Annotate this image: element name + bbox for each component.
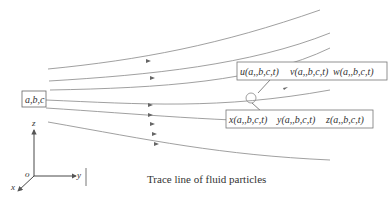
velocity-label: u(a,,b,c,t) v(a,,b,c,t) w(a,,b,c,t) bbox=[237, 62, 387, 80]
caption: Trace line of fluid particles bbox=[147, 173, 266, 185]
z-axis-label: z bbox=[31, 118, 36, 128]
position-label: x(a,,b,c,t) y(a,,b,c,t) z(a,,b,c,t) bbox=[226, 110, 373, 128]
origin-label: o bbox=[25, 169, 30, 179]
svg-text:z(a,,b,c,t): z(a,,b,c,t) bbox=[325, 114, 364, 126]
y-axis-label: y bbox=[76, 170, 81, 180]
streamline-4 bbox=[46, 90, 330, 104]
particle-marker bbox=[246, 93, 256, 103]
svg-text:a,b,c: a,b,c bbox=[25, 94, 45, 105]
svg-text:y(a,,b,c,t): y(a,,b,c,t) bbox=[276, 114, 316, 126]
coordinate-axes bbox=[18, 130, 86, 191]
svg-text:w(a,,b,c,t): w(a,,b,c,t) bbox=[333, 66, 374, 78]
initial-point-label: a,b,c bbox=[22, 91, 46, 107]
streamlines bbox=[46, 10, 330, 160]
svg-text:u(a,,b,c,t): u(a,,b,c,t) bbox=[240, 66, 280, 78]
svg-text:v(a,,b,c,t): v(a,,b,c,t) bbox=[290, 66, 329, 78]
x-axis-label: x bbox=[10, 182, 15, 192]
svg-text:x(a,,b,c,t): x(a,,b,c,t) bbox=[228, 114, 268, 126]
streamline-1 bbox=[48, 10, 320, 69]
trace-line-diagram: a,b,c u(a,,b,c,t) v(a,,b,c,t) w(a,,b,c,t… bbox=[0, 0, 391, 201]
